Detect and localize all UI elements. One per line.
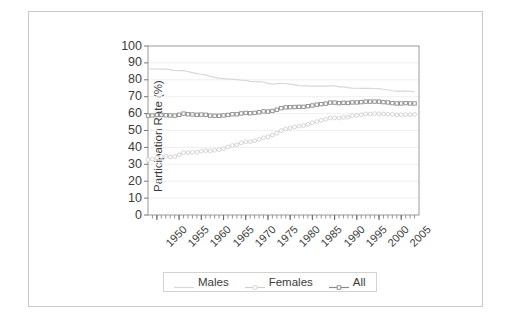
legend-marker-all-icon bbox=[329, 278, 349, 287]
legend-label: Females bbox=[269, 276, 313, 288]
participation-rate-line-chart: Participation Rate (%) 10090807060504030… bbox=[0, 0, 509, 327]
legend-entry-all[interactable]: All bbox=[329, 276, 366, 288]
legend-marker-males-icon bbox=[174, 278, 194, 287]
legend-entry-females[interactable]: Females bbox=[245, 276, 313, 288]
legend-marker-females-icon bbox=[245, 278, 265, 287]
legend-label: All bbox=[353, 276, 366, 288]
legend-label: Males bbox=[198, 276, 229, 288]
legend-entry-males[interactable]: Males bbox=[174, 276, 229, 288]
chart-legend: MalesFemalesAll bbox=[163, 272, 377, 292]
